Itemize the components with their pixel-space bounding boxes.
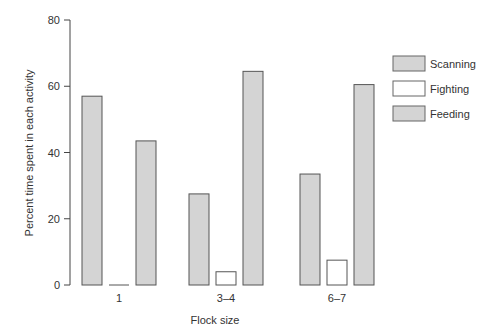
bar-fighting: [327, 260, 347, 285]
bar-chart: 020406080Percent time spent in each acti…: [0, 0, 496, 334]
legend-label-scanning: Scanning: [430, 58, 476, 70]
bar-fighting: [216, 272, 236, 285]
legend-label-fighting: Fighting: [430, 83, 469, 95]
bar-feeding: [354, 85, 374, 285]
y-tick-label: 40: [48, 147, 60, 159]
x-tick-label: 6–7: [328, 292, 346, 304]
x-tick-label: 3–4: [217, 292, 235, 304]
y-tick-label: 60: [48, 80, 60, 92]
bar-feeding: [243, 71, 263, 285]
bar-feeding: [136, 141, 156, 285]
x-axis-label: Flock size: [191, 314, 240, 326]
legend-swatch-feeding: [393, 106, 425, 121]
x-tick-label: 1: [116, 292, 122, 304]
chart-root: 020406080Percent time spent in each acti…: [0, 0, 496, 334]
bar-scanning: [300, 174, 320, 285]
legend-swatch-fighting: [393, 81, 425, 96]
bar-scanning: [82, 96, 102, 285]
y-tick-label: 20: [48, 213, 60, 225]
y-axis-label: Percent time spent in each activity: [23, 69, 35, 236]
bar-scanning: [189, 194, 209, 285]
y-tick-label: 80: [48, 14, 60, 26]
y-tick-label: 0: [54, 279, 60, 291]
legend-label-feeding: Feeding: [430, 108, 470, 120]
legend-swatch-scanning: [393, 56, 425, 71]
